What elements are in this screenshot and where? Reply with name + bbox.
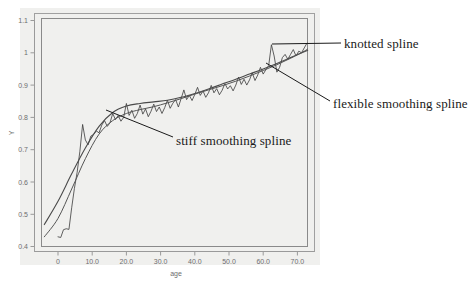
x-tick-label: 30.0 — [154, 258, 168, 265]
x-axis-title: age — [170, 270, 182, 278]
y-axis: 1.1 1 0.9 0.8 0.7 0.6 0.5 0.4 Y — [8, 17, 35, 250]
x-tick-label: 0 — [56, 258, 60, 265]
y-tick-label: 1.1 — [18, 17, 28, 24]
y-tick-marks — [31, 21, 35, 247]
y-axis-title: Y — [8, 130, 15, 135]
x-tick-label: 20.0 — [120, 258, 134, 265]
leader-line-flexible-smoothing-spline — [266, 63, 330, 101]
y-tick-label: 0.4 — [18, 243, 28, 250]
y-tick-label: 0.8 — [18, 114, 28, 121]
x-axis: 0 10.0 20.0 30.0 40.0 50.0 60.0 70.0 age — [35, 252, 315, 279]
x-tick-label: 50.0 — [222, 258, 236, 265]
x-tick-label: 60.0 — [256, 258, 270, 265]
annotation-flexible-smoothing-spline: flexible smoothing spline — [333, 96, 468, 112]
annotation-leaders — [106, 43, 341, 137]
x-tick-label: 10.0 — [85, 258, 99, 265]
x-tick-marks — [58, 252, 297, 256]
annotation-knotted-spline: knotted spline — [344, 36, 419, 52]
y-tick-label: 0.6 — [18, 179, 28, 186]
x-tick-labels: 0 10.0 20.0 30.0 40.0 50.0 60.0 70.0 — [56, 258, 304, 265]
leader-line-knotted-spline — [272, 43, 341, 44]
y-tick-label: 1 — [24, 49, 28, 56]
y-tick-label: 0.5 — [18, 211, 28, 218]
x-tick-label: 40.0 — [188, 258, 202, 265]
y-tick-label: 0.7 — [18, 146, 28, 153]
y-tick-labels: 1.1 1 0.9 0.8 0.7 0.6 0.5 0.4 — [18, 17, 28, 250]
leader-line-stiff-smoothing-spline — [106, 110, 173, 137]
annotation-stiff-smoothing-spline: stiff smoothing spline — [176, 133, 291, 149]
y-tick-label: 0.9 — [18, 82, 28, 89]
x-tick-label: 70.0 — [291, 258, 305, 265]
chart-page: 1.1 1 0.9 0.8 0.7 0.6 0.5 0.4 Y — [0, 0, 469, 293]
